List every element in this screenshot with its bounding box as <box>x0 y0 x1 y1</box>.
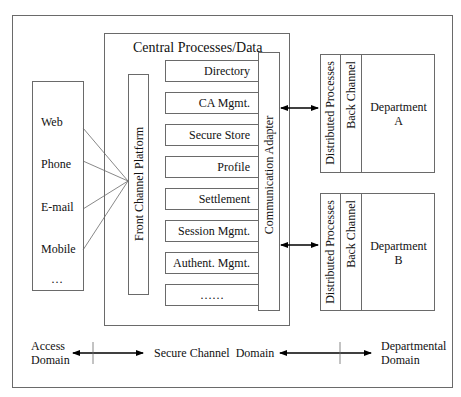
connectors <box>0 0 461 397</box>
access-domain-label: Access Domain <box>31 339 70 367</box>
secure-channel-domain-label: Secure Channel Domain <box>154 346 274 360</box>
departmental-domain-label: Departmental Domain <box>381 339 446 367</box>
fan-lines <box>83 128 128 250</box>
departmental-domain-line1: Departmental <box>381 339 446 353</box>
access-domain-line1: Access <box>31 339 70 353</box>
access-domain-line2: Domain <box>31 353 70 367</box>
departmental-domain-line2: Domain <box>381 353 446 367</box>
